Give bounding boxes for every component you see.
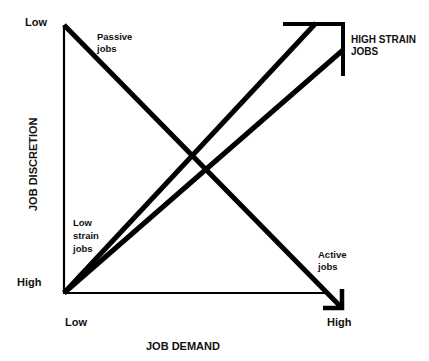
job-strain-diagram: Low High JOB DISCRETION Low High JOB DEM… bbox=[0, 0, 429, 361]
y-axis-title: JOB DISCRETION bbox=[27, 117, 39, 211]
high-strain-label-line1: HIGH STRAIN bbox=[351, 34, 416, 45]
x-axis-left-label: Low bbox=[65, 316, 87, 328]
low-strain-label-line3: jobs bbox=[72, 243, 93, 254]
high-strain-label-line2: JOBS bbox=[351, 46, 379, 57]
y-axis-bottom-label: High bbox=[17, 276, 42, 288]
active-jobs-label-line2: jobs bbox=[317, 261, 338, 272]
low-strain-label-line1: Low bbox=[73, 217, 93, 228]
passive-jobs-label-line2: jobs bbox=[96, 43, 117, 54]
low-strain-label-line2: strain bbox=[73, 230, 99, 241]
low-to-high-strain-diagonal-lower bbox=[64, 50, 343, 293]
x-axis-title: JOB DEMAND bbox=[146, 340, 220, 352]
passive-to-active-diagonal bbox=[64, 25, 340, 306]
y-axis-top-label: Low bbox=[25, 16, 47, 28]
passive-jobs-label-line1: Passive bbox=[97, 31, 132, 42]
x-axis-right-label: High bbox=[327, 316, 352, 328]
active-jobs-label-line1: Active bbox=[318, 249, 347, 260]
